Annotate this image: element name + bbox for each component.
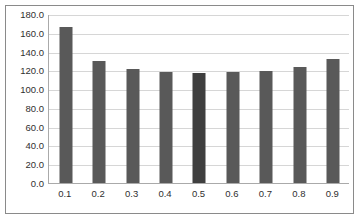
bar-0.7[interactable] [260,71,273,183]
y-tick-label: 120.0 [6,66,44,76]
y-tick-label: 40.0 [6,141,44,151]
bar-slot [250,15,283,183]
bar-slot [317,15,350,183]
chart-frame: 180.0160.0140.0120.0100.080.060.040.020.… [5,5,354,214]
bar-slot [149,15,182,183]
y-tick-label: 20.0 [6,160,44,170]
y-tick-label: 140.0 [6,48,44,58]
y-tick-label: 180.0 [6,10,44,20]
bar-slot [49,15,82,183]
y-tick-label: 160.0 [6,29,44,39]
bar-slot [116,15,149,183]
bar-0.6[interactable] [226,72,239,183]
plot-area [48,15,349,184]
y-axis: 180.0160.0140.0120.0100.080.060.040.020.… [6,6,47,184]
bar-0.9[interactable] [327,59,340,183]
y-tick-label: 100.0 [6,85,44,95]
y-tick-label: 60.0 [6,123,44,133]
x-tick-label: 0.9 [312,188,352,200]
bar-0.1[interactable] [59,27,72,183]
chart-plot-wrapper: 180.0160.0140.0120.0100.080.060.040.020.… [6,6,353,213]
bar-slot [216,15,249,183]
x-axis: 0.10.20.30.40.50.60.70.80.9 [48,186,348,206]
bar-series [49,15,349,183]
bar-0.5[interactable] [193,73,206,183]
bar-0.8[interactable] [293,67,306,183]
bar-slot [283,15,316,183]
bar-slot [183,15,216,183]
y-tick-label: 80.0 [6,104,44,114]
bar-0.3[interactable] [126,69,139,183]
y-tick-label: 0.0 [6,179,44,189]
bar-0.4[interactable] [160,72,173,183]
bar-0.2[interactable] [93,61,106,183]
bar-slot [82,15,115,183]
